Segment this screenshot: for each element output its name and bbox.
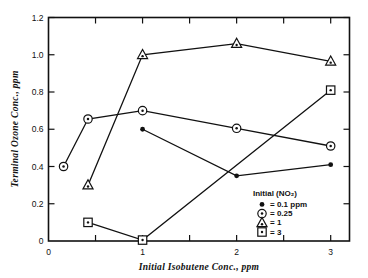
y-tick-label: 0 — [39, 236, 44, 246]
chart-figure: 0123 00.20.40.60.81.01.2 Initial Isobute… — [0, 0, 368, 278]
legend-item-label: = 1 — [270, 218, 282, 227]
y-tick-label: 0.4 — [32, 162, 44, 172]
data-point — [326, 142, 334, 150]
y-tick-label: 0.2 — [32, 199, 44, 209]
y-tick-label: 1.2 — [32, 13, 44, 23]
legend-title: Initial (NO₂) — [253, 189, 297, 198]
data-point — [234, 173, 239, 178]
data-point — [140, 127, 145, 132]
data-point — [84, 115, 92, 123]
data-point — [232, 124, 240, 132]
data-point — [138, 106, 146, 114]
y-axis-title: Terminal Ozone Conc., ppm — [10, 70, 20, 187]
x-axis-title: Initial Isobutene Conc., ppm — [138, 262, 260, 272]
x-tick-label: 2 — [234, 247, 239, 257]
data-point — [326, 86, 334, 94]
data-point — [59, 162, 67, 170]
legend-marker — [260, 202, 265, 207]
y-tick-label: 0.6 — [32, 124, 44, 134]
x-tick-label: 0 — [46, 247, 51, 257]
legend-item-label: = 0.25 — [270, 209, 293, 218]
y-tick-label: 0.8 — [32, 87, 44, 97]
data-point — [84, 218, 92, 226]
x-tick-label: 1 — [140, 247, 145, 257]
legend-item-label: = 0.1 ppm — [270, 200, 307, 209]
legend-item: = 1 — [257, 218, 282, 228]
data-point — [138, 236, 146, 244]
legend-item: = 0.25 — [258, 209, 293, 218]
data-point — [328, 162, 333, 167]
chart-background — [0, 0, 368, 278]
legend-marker — [258, 228, 266, 236]
x-tick-label: 3 — [328, 247, 333, 257]
legend-item: = 3 — [258, 228, 282, 237]
legend-item-label: = 3 — [270, 228, 282, 237]
ozone-vs-isobutene-line-chart: 0123 00.20.40.60.81.01.2 Initial Isobute… — [0, 0, 368, 278]
y-tick-label: 1.0 — [32, 50, 44, 60]
